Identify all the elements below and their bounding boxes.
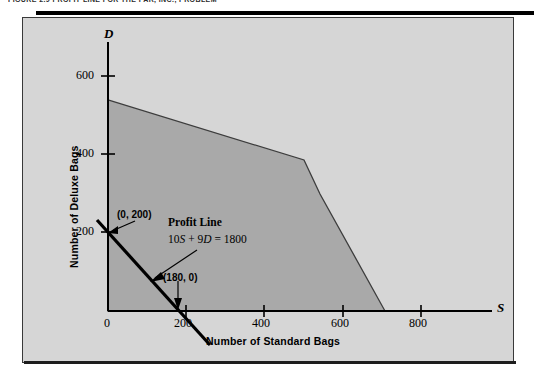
x-tick-label-600: 600 [331, 316, 349, 331]
x-axis-variable-label: S [497, 300, 504, 316]
profit-line-equation: 10S + 9D = 1800 [168, 233, 247, 245]
profit-eq-mid: + 9 [185, 233, 203, 245]
x-axis-title: Number of Standard Bags [206, 335, 340, 347]
profit-line-heading: Profit Line [168, 216, 222, 228]
x-tick-label-200: 200 [174, 316, 192, 331]
profit-eq-rhs: = 1800 [212, 233, 247, 245]
x-tick-label-800: 800 [409, 316, 427, 331]
x-tick-label-400: 400 [252, 316, 270, 331]
profit-eq-coef-s: 10 [168, 233, 180, 245]
figure-root: FIGURE 2.9 PROFIT LINE FOR THE PAR, INC.… [0, 0, 537, 380]
annotation-label-180-0: (180, 0) [163, 272, 197, 283]
y-axis-variable-label: D [104, 26, 113, 42]
annotation-label-0-200: (0, 200) [117, 209, 151, 220]
x-tick-label-0: 0 [104, 316, 110, 331]
y-tick-label-600: 600 [76, 68, 94, 83]
y-axis-title: Number of Deluxe Bags [68, 145, 80, 268]
profit-eq-var-d: D [203, 233, 211, 245]
